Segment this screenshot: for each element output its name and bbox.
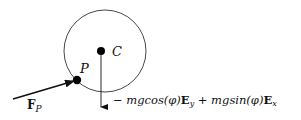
force-label: FP	[27, 98, 43, 114]
gravity-equation: − mgcos(φ)Ey + mgsin(φ)Ex	[113, 93, 277, 108]
contact-point-label: P	[79, 61, 89, 76]
rigid-body-diagram: C P FP − mgcos(φ)Ey + mgsin(φ)Ex	[0, 0, 301, 120]
center-label: C	[112, 44, 122, 59]
applied-force-arrow	[13, 81, 74, 99]
contact-point-dot	[73, 76, 81, 84]
